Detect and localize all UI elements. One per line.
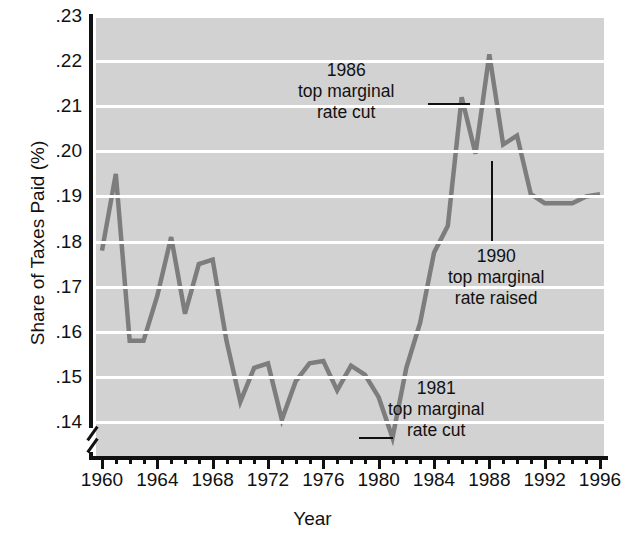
x-axis-major-tick (488, 456, 491, 469)
annotation-1990-rate-raised: 1990 top marginal rate raised (448, 246, 544, 310)
x-axis-minor-tick (447, 456, 450, 464)
x-axis-tick-label: 1996 (570, 470, 625, 489)
gridline (96, 150, 604, 153)
annotation-1990-line1: 1990 (448, 246, 544, 267)
x-axis-tick-label: 1964 (127, 470, 187, 489)
x-axis-minor-tick (253, 456, 256, 464)
x-axis-minor-tick (571, 456, 574, 464)
y-axis-tick-label: .21 (36, 96, 82, 115)
x-axis-minor-tick (461, 456, 464, 464)
chart-figure: Share of Taxes Paid (%) .23.22.21.20.19.… (0, 0, 625, 556)
x-axis-tick-label: 1960 (72, 470, 132, 489)
x-axis-minor-tick (295, 456, 298, 464)
annotation-1981-leader-line (359, 437, 393, 439)
x-axis-tick-label: 1972 (238, 470, 298, 489)
x-axis-minor-tick (392, 456, 395, 464)
x-axis-major-tick (212, 456, 215, 469)
x-axis-minor-tick (530, 456, 533, 464)
x-axis-minor-tick (475, 456, 478, 464)
y-axis-line (89, 14, 93, 458)
x-axis-minor-tick (184, 456, 187, 464)
x-axis-minor-tick (198, 456, 201, 464)
gridline (96, 421, 604, 424)
x-axis-minor-tick (502, 456, 505, 464)
x-axis-minor-tick (226, 456, 229, 464)
gridline (96, 195, 604, 198)
x-axis-minor-tick (585, 456, 588, 464)
x-axis-major-tick (322, 456, 325, 469)
x-axis-minor-tick (281, 456, 284, 464)
x-axis-title: Year (0, 508, 625, 530)
y-axis-tick-label: .14 (36, 412, 82, 431)
y-axis-tick-label: .15 (36, 367, 82, 386)
x-axis-tick-label: 1980 (349, 470, 409, 489)
x-axis-minor-tick (309, 456, 312, 464)
y-axis-tick-label: .20 (36, 141, 82, 160)
annotation-1981-line3: rate cut (388, 420, 484, 441)
y-axis-tick-label: .22 (36, 51, 82, 70)
x-axis-major-tick (433, 456, 436, 469)
x-axis-major-tick (599, 456, 602, 469)
annotation-1986-line1: 1986 (298, 60, 394, 81)
annotation-1990-line2: top marginal (448, 267, 544, 288)
annotation-1981-line2: top marginal (388, 399, 484, 420)
x-axis-minor-tick (170, 456, 173, 464)
x-axis-major-tick (378, 456, 381, 469)
gridline (96, 376, 604, 379)
x-axis-minor-tick (350, 456, 353, 464)
x-axis-major-tick (267, 456, 270, 469)
x-axis-minor-tick (405, 456, 408, 464)
x-axis-minor-tick (336, 456, 339, 464)
y-axis-tick-label: .16 (36, 322, 82, 341)
annotation-1986-rate-cut: 1986 top marginal rate cut (298, 60, 394, 124)
x-axis-tick-label: 1988 (459, 470, 519, 489)
annotation-1990-leader-line (491, 161, 493, 241)
y-axis-tick-label: .18 (36, 232, 82, 251)
y-axis-tick-label: .17 (36, 277, 82, 296)
x-axis-tick-label: 1976 (293, 470, 353, 489)
x-axis-minor-tick (239, 456, 242, 464)
x-axis-minor-tick (558, 456, 561, 464)
gridline (96, 241, 604, 244)
y-axis-tick-label: .23 (36, 6, 82, 25)
x-axis-minor-tick (516, 456, 519, 464)
x-axis-minor-tick (364, 456, 367, 464)
annotation-1986-leader-line (428, 103, 470, 105)
gridline (96, 331, 604, 334)
x-axis-tick-label: 1992 (515, 470, 575, 489)
x-axis-major-tick (101, 456, 104, 469)
annotation-1986-line2: top marginal (298, 81, 394, 102)
x-axis-minor-tick (115, 456, 118, 464)
annotation-1990-line3: rate raised (448, 288, 544, 309)
x-axis-major-tick (544, 456, 547, 469)
x-axis-minor-tick (143, 456, 146, 464)
annotation-1986-line3: rate cut (298, 102, 394, 123)
annotation-1981-rate-cut: 1981 top marginal rate cut (388, 378, 484, 442)
x-axis-tick-label: 1968 (183, 470, 243, 489)
x-axis-major-tick (156, 456, 159, 469)
x-axis-minor-tick (419, 456, 422, 464)
y-axis-tick-label: .19 (36, 186, 82, 205)
x-axis-minor-tick (129, 456, 132, 464)
annotation-1981-line1: 1981 (388, 378, 484, 399)
gridline (96, 15, 604, 18)
x-axis-tick-label: 1984 (404, 470, 464, 489)
